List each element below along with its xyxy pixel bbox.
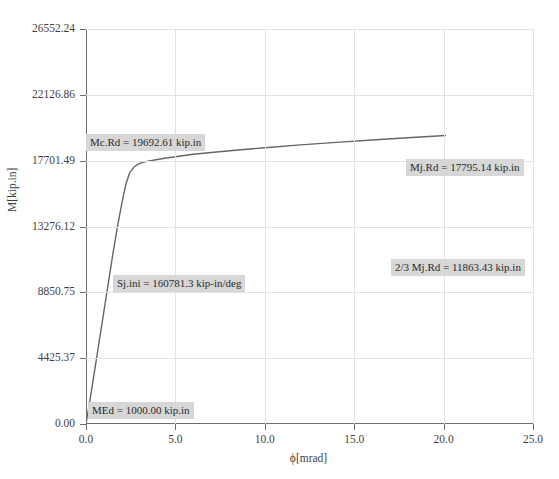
y-tick	[80, 358, 86, 359]
annotation-sjini: Sj.ini = 160781.3 kip-in/deg	[113, 275, 245, 292]
y-tick-label: 0.00	[0, 418, 75, 430]
y-tick	[80, 292, 86, 293]
x-tick-label: 15.0	[324, 434, 384, 446]
x-axis-line	[86, 423, 533, 424]
y-tick	[80, 161, 86, 162]
y-axis-title: M[kip.in]	[6, 168, 18, 212]
chart-figure: M[kip.in] 0.004425.378850.7513276.121770…	[0, 0, 559, 479]
y-tick-label: 4425.37	[0, 352, 75, 364]
x-tick	[86, 424, 87, 430]
annotation-mjrd23: 2/3 Mj.Rd = 11863.43 kip.in	[391, 259, 525, 276]
annotation-mjrd: Mj.Rd = 17795.14 kip.in	[406, 159, 524, 176]
y-tick-label: 22126.86	[0, 89, 75, 101]
x-tick-label: 25.0	[503, 434, 559, 446]
gridline-horizontal	[86, 358, 533, 359]
gridline-vertical	[265, 29, 266, 424]
gridline-horizontal	[86, 95, 533, 96]
gridline-vertical	[533, 29, 534, 424]
x-tick-label: 20.0	[414, 434, 474, 446]
y-tick-label: 13276.12	[0, 221, 75, 233]
y-tick-label: 8850.75	[0, 286, 75, 298]
x-tick	[444, 424, 445, 430]
x-tick-label: 10.0	[235, 434, 295, 446]
x-tick-label: 5.0	[145, 434, 205, 446]
x-tick	[354, 424, 355, 430]
x-tick	[265, 424, 266, 430]
annotation-med: MEd = 1000.00 kip.in	[88, 402, 194, 419]
x-tick	[533, 424, 534, 430]
x-axis-title: ϕ[mrad]	[0, 452, 559, 464]
y-tick-label: 17701.49	[0, 155, 75, 167]
gridline-horizontal	[86, 292, 533, 293]
y-tick	[80, 29, 86, 30]
gridline-vertical	[175, 29, 176, 424]
gridline-vertical	[354, 29, 355, 424]
y-tick-label: 26552.24	[0, 23, 75, 35]
gridline-horizontal	[86, 227, 533, 228]
y-tick	[80, 95, 86, 96]
y-tick	[80, 227, 86, 228]
x-tick	[175, 424, 176, 430]
plot-area	[86, 29, 533, 424]
x-tick-label: 0.0	[56, 434, 116, 446]
gridline-horizontal	[86, 29, 533, 30]
gridline-vertical	[444, 29, 445, 424]
annotation-mcrd: Mc.Rd = 19692.61 kip.in	[86, 134, 205, 151]
